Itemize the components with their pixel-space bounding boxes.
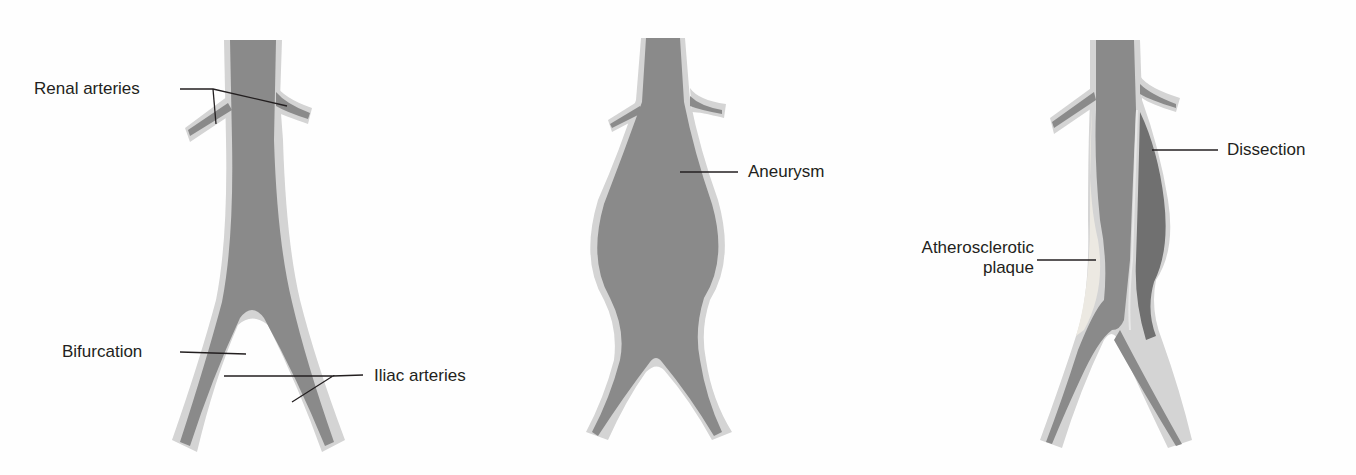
- illustrations: [0, 0, 1356, 475]
- label-renal-arteries: Renal arteries: [34, 79, 140, 99]
- dissection-aorta: [1040, 40, 1192, 448]
- label-iliac-arteries: Iliac arteries: [374, 366, 466, 386]
- normal-aorta: [172, 40, 345, 452]
- aneurysm-aorta: [586, 38, 732, 440]
- label-dissection: Dissection: [1227, 140, 1305, 160]
- label-plaque-line2: plaque: [896, 258, 1034, 278]
- aorta-diagram: Renal arteries Bifurcation Iliac arterie…: [0, 0, 1356, 475]
- label-bifurcation: Bifurcation: [62, 342, 142, 362]
- label-plaque-line1: Atherosclerotic: [896, 238, 1034, 258]
- label-aneurysm: Aneurysm: [748, 162, 825, 182]
- label-atherosclerotic-plaque: Atherosclerotic plaque: [896, 238, 1034, 278]
